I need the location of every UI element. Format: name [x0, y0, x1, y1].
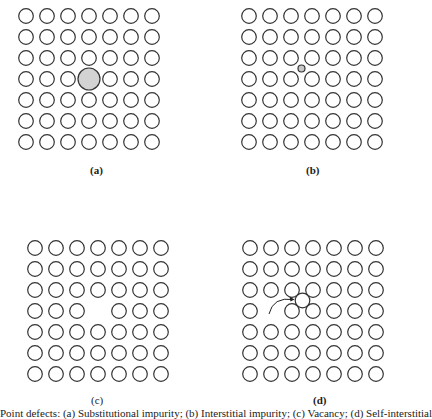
lattice-atom	[348, 346, 363, 361]
lattice-atom	[243, 283, 258, 298]
lattice-atom	[348, 367, 363, 382]
lattice-atom	[369, 325, 384, 340]
lattice-atom	[348, 325, 363, 340]
lattice-atom	[327, 325, 342, 340]
lattice-atom	[243, 241, 258, 256]
self-interstitial-atom	[295, 293, 310, 308]
lattice-atom	[369, 304, 384, 319]
panel-label-c: (c)	[91, 394, 103, 406]
lattice-atom	[348, 304, 363, 319]
lattice-atom	[306, 241, 321, 256]
lattice-atom	[369, 283, 384, 298]
lattice-atom	[327, 241, 342, 256]
lattice-atom	[264, 283, 279, 298]
lattice-atom	[285, 262, 300, 277]
lattice-atom	[285, 367, 300, 382]
lattice-atom	[327, 304, 342, 319]
lattice-atom	[285, 325, 300, 340]
lattice-atom	[264, 262, 279, 277]
lattice-atom	[369, 346, 384, 361]
lattice-atom	[369, 367, 384, 382]
lattice-atom	[306, 325, 321, 340]
lattice-atom	[243, 262, 258, 277]
panel-label-d: (d)	[313, 394, 326, 406]
lattice-atom	[285, 346, 300, 361]
lattice-atom	[264, 325, 279, 340]
lattice-atom	[348, 241, 363, 256]
lattice-atom	[348, 262, 363, 277]
lattice-atom	[348, 283, 363, 298]
lattice-atom	[369, 241, 384, 256]
lattice-atom	[264, 241, 279, 256]
lattice-atom	[306, 367, 321, 382]
figure-caption: Point defects: (a) Substitutional impuri…	[0, 407, 408, 419]
lattice-atom	[243, 304, 258, 319]
lattice-atom	[327, 262, 342, 277]
lattice-atom	[243, 346, 258, 361]
panel-label-b: (b)	[306, 164, 319, 176]
lattice-atom	[264, 367, 279, 382]
panel-label-a: (a)	[90, 164, 103, 176]
lattice-atom	[243, 325, 258, 340]
lattice-atom	[327, 346, 342, 361]
lattice-atom	[327, 367, 342, 382]
lattice-atom	[369, 262, 384, 277]
lattice-atom	[306, 262, 321, 277]
lattice-atom	[243, 367, 258, 382]
lattice-atom	[327, 283, 342, 298]
lattice-atom	[264, 346, 279, 361]
lattice-atom	[285, 241, 300, 256]
lattice-atom	[306, 346, 321, 361]
